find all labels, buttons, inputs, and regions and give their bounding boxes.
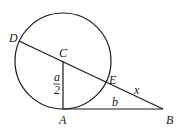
secant-line-db xyxy=(19,41,163,109)
label-c: C xyxy=(59,46,68,60)
label-b: B xyxy=(166,113,174,127)
label-a-over-2-den: 2 xyxy=(54,83,60,97)
label-x-length: x xyxy=(133,83,140,97)
label-e: E xyxy=(108,73,117,87)
geometry-diagram: D C E A B a 2 b x xyxy=(0,0,184,128)
label-a-over-2-num: a xyxy=(54,70,60,84)
label-d: D xyxy=(8,31,18,45)
label-a: A xyxy=(58,113,67,127)
label-b-length: b xyxy=(112,95,118,109)
